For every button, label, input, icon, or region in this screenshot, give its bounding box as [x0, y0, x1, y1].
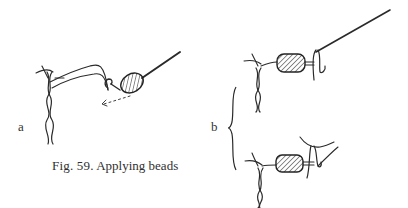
bead-a [117, 69, 147, 97]
panel-b-top-drawing [244, 10, 390, 112]
caption-text: Applying beads [94, 158, 179, 173]
caption-figure-number: Fig. 59. [52, 158, 94, 173]
brace-b [228, 87, 236, 170]
bead-b-bottom [276, 155, 303, 172]
illustration [0, 0, 408, 208]
figure-applying-beads: a b Fig. 59. Applying beads [0, 0, 408, 208]
panel-a-drawing [36, 52, 180, 144]
figure-caption: Fig. 59. Applying beads [52, 158, 178, 174]
panel-label-b: b [211, 119, 218, 135]
bead-b-top [277, 54, 305, 72]
panel-label-a: a [18, 119, 24, 135]
